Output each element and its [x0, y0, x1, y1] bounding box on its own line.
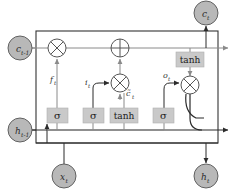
- gate-output-label: σ: [160, 110, 167, 121]
- gate-forget-label: σ: [54, 110, 61, 121]
- label-candidate-subscript: t: [132, 94, 135, 100]
- operator-state-add[interactable]: [111, 39, 129, 57]
- lstm-diagram-svg: σ σ tanh σ tanh: [0, 0, 236, 195]
- operator-forget-multiply[interactable]: [48, 39, 66, 57]
- label-candidate-symbol: c̃: [126, 89, 131, 98]
- node-c-prev[interactable]: c t-1: [8, 36, 32, 60]
- output-gate-output-wire: [164, 83, 179, 108]
- gate-output-tanh-label: tanh: [180, 55, 201, 65]
- node-h-prev-label: h: [15, 126, 21, 136]
- operator-output-multiply[interactable]: [181, 76, 199, 94]
- label-candidate: c̃ t: [126, 89, 135, 100]
- gate-input-label: σ: [90, 110, 97, 121]
- node-c-t[interactable]: c t: [194, 1, 218, 25]
- gate-output[interactable]: σ: [153, 108, 174, 123]
- node-h-prev[interactable]: h t-1: [8, 118, 32, 142]
- gate-forget[interactable]: σ: [47, 108, 68, 123]
- lstm-diagram-canvas: σ σ tanh σ tanh: [0, 0, 236, 195]
- output-multiply-to-hidden-wire: [190, 94, 202, 130]
- gate-output-tanh[interactable]: tanh: [176, 52, 204, 67]
- node-x-t-label: x: [60, 172, 65, 182]
- label-output-subscript: t: [168, 76, 171, 82]
- input-gate-output-wire: [93, 83, 109, 108]
- label-output: o t: [163, 71, 171, 82]
- label-input-subscript: t: [88, 83, 91, 89]
- node-h-t-label: h: [201, 172, 207, 182]
- node-h-prev-subscript: t-1: [21, 131, 29, 138]
- gate-candidate-label: tanh: [114, 111, 135, 121]
- node-x-t[interactable]: x t: [52, 164, 76, 188]
- label-forget: f t: [49, 75, 57, 86]
- node-c-prev-subscript: t-1: [21, 49, 29, 56]
- gate-candidate[interactable]: tanh: [110, 108, 138, 123]
- gate-input[interactable]: σ: [83, 108, 104, 123]
- label-input: i t: [85, 78, 91, 89]
- node-h-t[interactable]: h t: [194, 164, 218, 188]
- hidden-output-curve-wire: [186, 94, 204, 118]
